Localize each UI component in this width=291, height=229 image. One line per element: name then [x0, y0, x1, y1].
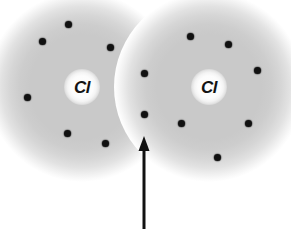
right-atom-electron-dot-4 — [178, 120, 185, 127]
left-atom-electron-dot-1 — [65, 21, 72, 28]
right-atom-symbol-badge: Cl — [191, 69, 227, 105]
right-atom-electron-dot-5 — [245, 120, 252, 127]
left-atom-electron-dot-5 — [64, 130, 71, 137]
right-atom-electron-dot-6 — [214, 154, 221, 161]
bonding-electron-lower — [141, 111, 148, 118]
left-atom-electron-dot-3 — [107, 44, 114, 51]
bonding-electron-upper — [141, 70, 148, 77]
left-atom-symbol-badge: Cl — [64, 69, 100, 105]
left-atom-electron-dot-4 — [24, 94, 31, 101]
right-atom-electron-dot-1 — [187, 33, 194, 40]
chlorine-molecule-diagram: Cl Cl — [0, 0, 291, 229]
right-atom-electron-dot-2 — [225, 41, 232, 48]
left-atom-symbol-label: Cl — [74, 78, 90, 95]
left-atom-electron-dot-6 — [102, 140, 109, 147]
right-atom-electron-dot-3 — [254, 67, 261, 74]
right-atom-symbol-label: Cl — [201, 78, 217, 95]
left-atom-electron-dot-2 — [39, 38, 46, 45]
